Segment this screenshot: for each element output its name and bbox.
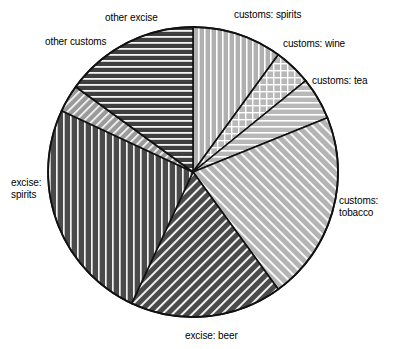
slice-label-other-excise: other excise (105, 12, 158, 24)
pie-chart-svg (0, 0, 394, 349)
slice-label-excise-spirits: excise:spirits (11, 177, 41, 200)
slice-label-customs-wine: customs: wine (283, 38, 345, 50)
slice-label-other-customs: other customs (45, 36, 107, 48)
slice-label-customs-tea: customs: tea (312, 75, 368, 87)
pie-slices-group (48, 27, 338, 317)
slice-label-excise-beer: excise: beer (185, 330, 238, 342)
slice-label-customs-tobacco: customs:tobacco (339, 195, 378, 218)
slice-label-customs-tobacco-line2: tobacco (339, 207, 373, 218)
slice-label-customs-tobacco-line1: customs: (339, 195, 378, 206)
slice-label-excise-spirits-line2: spirits (11, 189, 36, 200)
pie-chart-figure: customs: spirits customs: wine customs: … (0, 0, 394, 349)
slice-label-customs-spirits: customs: spirits (234, 9, 301, 21)
slice-label-excise-spirits-line1: excise: (11, 177, 41, 188)
